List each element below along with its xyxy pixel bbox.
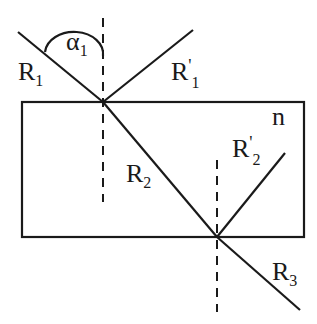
angle-alpha1-label: α1 [66,27,88,59]
ray-label-R1-prime: R'1 [171,56,200,91]
ray-label-R3: R3 [272,257,297,289]
ray-label-R2: R2 [126,159,151,191]
slab-rectangle [22,102,304,237]
ray-label-R1: R1 [18,57,43,89]
refraction-diagram: α1 R1 R'1 n R2 R'2 R3 [0,0,317,324]
ray-R2-reflected [217,153,285,237]
ray-label-R2-prime: R'2 [232,133,261,168]
medium-label-n: n [272,102,285,131]
ray-R2-refracted [103,102,217,237]
